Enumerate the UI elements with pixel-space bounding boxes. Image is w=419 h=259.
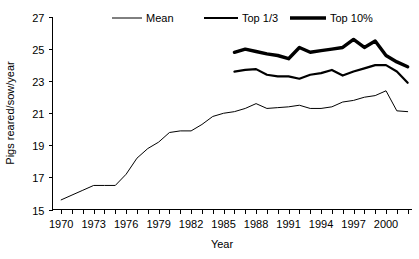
x-tick-label: 1991 [276,218,300,230]
y-tick-label: 23 [32,76,44,88]
x-tick-label: 1982 [179,218,203,230]
series-line-top-10 [234,39,407,66]
y-tick-label: 27 [32,12,44,24]
x-axis-title: Year [211,238,234,250]
x-tick-label: 2000 [374,218,398,230]
chart-axes [53,17,413,210]
x-axis-ticks [62,210,409,214]
x-tick-label: 1970 [49,218,73,230]
y-tick-label: 25 [32,44,44,56]
y-tick-label: 17 [32,172,44,184]
legend-label-top-10: Top 10% [330,12,373,24]
y-tick-label: 15 [32,205,44,217]
x-tick-label: 1997 [341,218,365,230]
series-line-top-1-3 [234,65,407,83]
y-axis-tick-labels: 15171921232527 [32,12,44,217]
chart-container: MeanTop 1/3Top 10% 15171921232527 197019… [0,0,419,259]
chart-series-lines [61,39,408,199]
legend-label-top-1-3: Top 1/3 [242,12,278,24]
x-tick-label: 1985 [211,218,235,230]
x-tick-label: 1988 [244,218,268,230]
series-line-mean [61,91,408,200]
y-axis-title: Pigs reared/sow/year [4,61,16,165]
y-tick-label: 19 [32,140,44,152]
x-tick-label: 1994 [309,218,333,230]
x-tick-label: 1976 [114,218,138,230]
chart-legend: MeanTop 1/3Top 10% [112,12,373,24]
x-tick-label: 1973 [81,218,105,230]
y-axis-ticks [49,18,53,211]
legend-label-mean: Mean [146,12,174,24]
y-tick-label: 21 [32,108,44,120]
x-tick-label: 1979 [146,218,170,230]
x-axis-tick-labels: 1970197319761979198219851988199119941997… [49,218,398,230]
line-chart: MeanTop 1/3Top 10% 15171921232527 197019… [0,0,419,259]
